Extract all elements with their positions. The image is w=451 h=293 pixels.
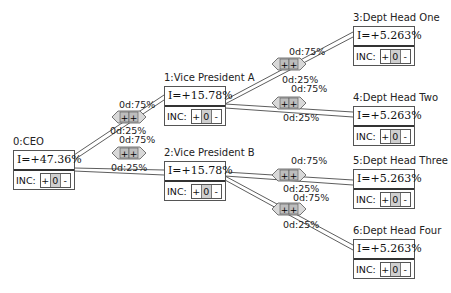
increment-button[interactable]: + (381, 50, 391, 63)
inc-stepper[interactable]: + 0 - (380, 49, 411, 64)
inc-count: 0 (391, 50, 401, 63)
node-title-vp-b: 2:Vice President B (164, 147, 255, 158)
increment-button[interactable]: + (192, 185, 202, 198)
edge-label-top-0-1: 0d:75% (119, 99, 155, 110)
node-title-dept-head-one: 3:Dept Head One (353, 12, 440, 23)
inc-count: 0 (391, 263, 401, 276)
svg-text:+: + (121, 113, 129, 123)
edge-label-top-2-6: 0d:75% (293, 192, 329, 203)
inc-label: INC: (167, 111, 187, 122)
edge-control-0-2[interactable]: + + (112, 147, 146, 159)
edge-control-1-4[interactable]: + + (272, 97, 306, 109)
node-dept-head-four[interactable]: I=+5.263% INC: + 0 - (353, 239, 415, 279)
node-title-dept-head-three: 5:Dept Head Three (353, 155, 448, 166)
decrement-button[interactable]: - (61, 174, 70, 187)
edge-label-top-0-2: 0d:75% (119, 134, 155, 145)
inc-stepper[interactable]: + 0 - (191, 109, 222, 124)
inc-label: INC: (356, 131, 376, 142)
increment-button[interactable]: + (381, 263, 391, 276)
inc-count: 0 (202, 110, 212, 123)
node-value: I=+15.78% (165, 87, 225, 107)
node-vp-a[interactable]: I=+15.78% INC: + 0 - (164, 86, 226, 126)
svg-text:+: + (290, 171, 298, 181)
inc-label: INC: (356, 194, 376, 205)
edge-control-2-5[interactable]: + + (272, 169, 306, 181)
inc-label: INC: (167, 186, 187, 197)
node-vp-b[interactable]: I=+15.78% INC: + 0 - (164, 161, 226, 201)
edge-control-2-6[interactable]: + + (272, 203, 306, 215)
node-title-vp-a: 1:Vice President A (164, 72, 255, 83)
node-dept-head-two[interactable]: I=+5.263% INC: + 0 - (353, 106, 415, 146)
inc-count: 0 (391, 193, 401, 206)
inc-count: 0 (391, 130, 401, 143)
edge-control-0-1[interactable]: + + (112, 111, 146, 123)
decrement-button[interactable]: - (212, 185, 221, 198)
node-value: I=+5.263% (354, 27, 414, 47)
decrement-button[interactable]: - (401, 50, 410, 63)
inc-stepper[interactable]: + 0 - (380, 129, 411, 144)
edge-label-bottom-0-2: 0d:25% (111, 162, 147, 173)
node-title-dept-head-two: 4:Dept Head Two (353, 92, 438, 103)
svg-text:+: + (121, 149, 129, 159)
edge-label-bottom-2-6: 0d:25% (283, 219, 319, 230)
inc-label: INC: (16, 175, 36, 186)
node-dept-head-three[interactable]: I=+5.263% INC: + 0 - (353, 169, 415, 209)
decrement-button[interactable]: - (212, 110, 221, 123)
svg-text:+: + (281, 171, 289, 181)
edge-control-1-3[interactable]: + + (272, 58, 306, 70)
node-value: I=+5.263% (354, 170, 414, 190)
edge-label-bottom-1-4: 0d:25% (283, 112, 319, 123)
inc-stepper[interactable]: + 0 - (380, 192, 411, 207)
inc-stepper[interactable]: + 0 - (380, 262, 411, 277)
svg-text:+: + (281, 99, 289, 109)
inc-stepper[interactable]: + 0 - (191, 184, 222, 199)
inc-label: INC: (356, 264, 376, 275)
inc-count: 0 (202, 185, 212, 198)
increment-button[interactable]: + (381, 130, 391, 143)
inc-count: 0 (51, 174, 61, 187)
node-value: I=+15.78% (165, 162, 225, 182)
node-value: I=+5.263% (354, 107, 414, 127)
edge-label-top-2-5: 0d:75% (291, 155, 327, 166)
svg-text:+: + (290, 99, 298, 109)
node-dept-head-one[interactable]: I=+5.263% INC: + 0 - (353, 26, 415, 66)
increment-button[interactable]: + (192, 110, 202, 123)
inc-stepper[interactable]: + 0 - (40, 173, 71, 188)
svg-text:+: + (130, 149, 138, 159)
edge-label-top-1-4: 0d:75% (291, 83, 327, 94)
svg-text:+: + (290, 205, 298, 215)
decrement-button[interactable]: - (401, 193, 410, 206)
decrement-button[interactable]: - (401, 263, 410, 276)
node-ceo[interactable]: I=+47.36% INC: + 0 - (13, 150, 75, 190)
decrement-button[interactable]: - (401, 130, 410, 143)
svg-text:+: + (130, 113, 138, 123)
inc-label: INC: (356, 51, 376, 62)
increment-button[interactable]: + (41, 174, 51, 187)
edge-label-top-1-3: 0d:75% (289, 46, 325, 57)
svg-text:+: + (290, 60, 298, 70)
node-value: I=+47.36% (14, 151, 74, 171)
node-title-ceo: 0:CEO (13, 136, 44, 147)
increment-button[interactable]: + (381, 193, 391, 206)
node-title-dept-head-four: 6:Dept Head Four (353, 225, 441, 236)
node-value: I=+5.263% (354, 240, 414, 260)
svg-text:+: + (281, 60, 289, 70)
svg-text:+: + (281, 205, 289, 215)
